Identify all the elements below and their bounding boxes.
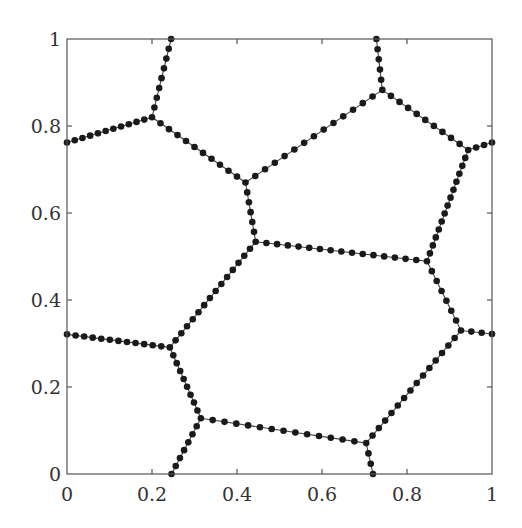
- data-point-marker: [292, 429, 299, 436]
- y-tick-label: 0: [49, 463, 61, 485]
- data-point-marker: [473, 144, 480, 151]
- data-point-marker: [151, 104, 158, 111]
- data-point-marker: [365, 450, 372, 457]
- data-point-marker: [163, 55, 170, 62]
- data-point-marker: [153, 94, 160, 101]
- data-point-marker: [79, 135, 86, 142]
- data-point-marker: [453, 317, 460, 324]
- x-tick-label: 0: [61, 483, 73, 505]
- data-point-marker: [191, 399, 198, 406]
- data-point-marker: [246, 199, 253, 206]
- data-point-marker: [158, 75, 165, 82]
- data-point-marker: [252, 173, 259, 180]
- data-point-marker: [172, 337, 179, 344]
- data-point-marker: [392, 254, 399, 261]
- data-point-marker: [235, 260, 242, 267]
- data-point-marker: [233, 420, 240, 427]
- data-point-marker: [311, 133, 318, 140]
- data-point-marker: [161, 65, 168, 72]
- data-point-marker: [72, 332, 79, 339]
- data-point-marker: [301, 140, 308, 147]
- data-point-marker: [81, 333, 88, 340]
- data-point-marker: [382, 417, 389, 424]
- data-point-marker: [221, 419, 228, 426]
- data-point-marker: [230, 267, 237, 274]
- data-point-marker: [165, 45, 172, 52]
- data-point-marker: [413, 111, 420, 118]
- data-point-marker: [185, 439, 192, 446]
- data-point-marker: [376, 425, 383, 432]
- data-point-marker: [350, 106, 357, 113]
- data-point-marker: [453, 178, 460, 185]
- data-point-marker: [263, 240, 270, 247]
- data-point-marker: [375, 56, 382, 63]
- data-point-marker: [438, 218, 445, 225]
- y-tick-label: 0.8: [31, 115, 61, 137]
- data-point-marker: [285, 242, 292, 249]
- data-point-marker: [448, 135, 455, 142]
- data-point-marker: [133, 119, 140, 126]
- data-point-marker: [170, 352, 177, 359]
- x-tick-label: 0.4: [222, 483, 252, 505]
- data-point-marker: [447, 194, 454, 201]
- data-point-marker: [478, 329, 485, 336]
- data-point-marker: [388, 410, 395, 417]
- data-point-marker: [242, 179, 249, 186]
- data-point-marker: [200, 150, 207, 157]
- data-point-marker: [424, 258, 431, 265]
- x-tick-label: 0.2: [137, 483, 167, 505]
- data-point-marker: [174, 132, 181, 139]
- data-point-marker: [327, 435, 334, 442]
- data-point-marker: [330, 120, 337, 127]
- data-point-marker: [339, 436, 346, 443]
- data-point-marker: [177, 368, 184, 375]
- data-point-marker: [107, 337, 114, 344]
- data-point-marker: [217, 161, 224, 168]
- data-point-marker: [71, 137, 78, 144]
- voronoi-chart: 00.20.40.60.81 00.20.40.60.81: [0, 0, 522, 528]
- data-point-marker: [191, 144, 198, 151]
- data-point-marker: [274, 241, 281, 248]
- data-point-marker: [468, 328, 475, 335]
- data-point-marker: [156, 85, 163, 92]
- data-point-marker: [158, 343, 165, 350]
- data-point-marker: [431, 123, 438, 130]
- data-point-marker: [388, 93, 395, 100]
- data-point-marker: [247, 245, 254, 252]
- data-point-marker: [187, 391, 194, 398]
- data-point-marker: [306, 245, 313, 252]
- data-point-marker: [157, 120, 164, 127]
- data-point-marker: [340, 113, 347, 120]
- data-point-marker: [177, 455, 184, 462]
- data-point-marker: [247, 209, 254, 216]
- y-tick-label: 0.2: [31, 376, 61, 398]
- data-point-marker: [173, 360, 180, 367]
- data-point-marker: [456, 141, 463, 148]
- data-point-marker: [172, 463, 179, 470]
- data-point-marker: [149, 342, 156, 349]
- data-point-marker: [189, 431, 196, 438]
- data-point-marker: [244, 189, 251, 196]
- data-point-marker: [317, 246, 324, 253]
- data-point-marker: [443, 298, 450, 305]
- data-point-marker: [194, 407, 201, 414]
- data-point-marker: [102, 128, 109, 135]
- data-point-marker: [126, 121, 133, 128]
- data-point-marker: [359, 251, 366, 258]
- data-point-marker: [320, 126, 327, 133]
- data-point-marker: [441, 210, 448, 217]
- data-point-marker: [456, 170, 463, 177]
- data-point-marker: [198, 415, 205, 422]
- data-point-marker: [272, 159, 279, 166]
- data-point-marker: [110, 125, 117, 132]
- data-point-marker: [439, 129, 446, 136]
- x-tick-label: 1: [486, 483, 498, 505]
- data-point-marker: [378, 76, 385, 83]
- data-point-marker: [458, 327, 465, 334]
- data-point-marker: [367, 460, 374, 467]
- data-point-marker: [374, 46, 381, 53]
- data-point-marker: [435, 226, 442, 233]
- data-point-marker: [141, 116, 148, 123]
- data-point-marker: [193, 423, 200, 430]
- data-point-marker: [295, 243, 302, 250]
